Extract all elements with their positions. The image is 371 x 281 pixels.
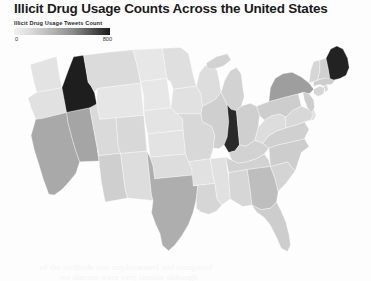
state-KS[interactable]	[148, 130, 186, 157]
state-ME[interactable]	[326, 46, 349, 80]
legend-colorbar	[14, 28, 110, 35]
legend-tick-min: 0	[15, 36, 18, 42]
state-CO[interactable]	[116, 115, 147, 153]
legend-ticks: 0 800	[14, 35, 110, 44]
state-IA[interactable]	[171, 86, 203, 114]
chart-page: of the methods was implemented and compa…	[0, 0, 371, 281]
bleed-text-line2: we discuss were very similar although	[60, 272, 198, 281]
state-WY[interactable]	[97, 83, 144, 119]
legend-title: Illicit Drug Usage Tweets Count	[14, 20, 110, 26]
state-CT[interactable]	[314, 86, 325, 96]
state-OK[interactable]	[150, 154, 193, 179]
legend-tick-max: 800	[103, 36, 112, 42]
state-FL[interactable]	[252, 202, 291, 251]
state-SD[interactable]	[141, 78, 171, 110]
states-layer	[28, 46, 349, 251]
choropleth-map	[0, 46, 371, 268]
state-WA[interactable]	[30, 56, 62, 92]
legend: Illicit Drug Usage Tweets Count 0 800	[14, 20, 110, 44]
us-states-svg	[0, 46, 371, 268]
page-title: Illicit Drug Usage Counts Across the Uni…	[14, 1, 328, 16]
